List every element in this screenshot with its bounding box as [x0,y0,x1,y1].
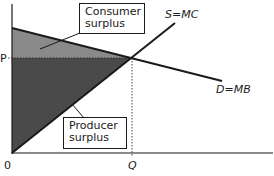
demand-label: D=MB [216,84,251,95]
producer-surplus-callout: Producer surplus [63,117,127,149]
price-axis-label: P [0,53,7,64]
producer-surplus-leader [72,104,84,118]
supply-label: S=MC [165,9,198,20]
origin-label: 0 [4,160,11,171]
producer-surplus-label-line2: surplus [69,132,121,144]
consumer-surplus-label-line2: surplus [85,18,139,30]
quantity-axis-label: Q [128,160,137,171]
consumer-surplus-callout: Consumer surplus [79,3,145,34]
